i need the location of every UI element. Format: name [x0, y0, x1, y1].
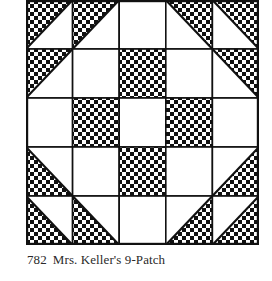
quilt-cell	[119, 147, 166, 196]
quilt-cell	[73, 49, 120, 98]
quilt-pattern-grid	[26, 0, 259, 245]
quilt-cell	[166, 196, 213, 245]
quilt-cell	[26, 147, 73, 196]
quilt-cell	[26, 0, 73, 49]
quilt-cell	[119, 0, 166, 49]
quilt-cell	[212, 98, 259, 147]
quilt-cell	[73, 0, 120, 49]
quilt-cell	[166, 49, 213, 98]
figure-caption: 782Mrs. Keller's 9-Patch	[27, 252, 165, 268]
quilt-cell	[26, 98, 73, 147]
quilt-cell	[73, 147, 120, 196]
quilt-cell	[166, 98, 213, 147]
quilt-cell	[166, 0, 213, 49]
quilt-cell	[212, 49, 259, 98]
figure-title: Mrs. Keller's 9-Patch	[53, 252, 165, 267]
quilt-cell	[26, 49, 73, 98]
quilt-cell	[119, 98, 166, 147]
quilt-cell	[73, 98, 120, 147]
quilt-block-diagram	[26, 0, 259, 245]
quilt-cell	[212, 196, 259, 245]
quilt-cell	[212, 147, 259, 196]
quilt-cell	[73, 196, 120, 245]
figure-number: 782	[27, 252, 47, 267]
quilt-cell	[166, 147, 213, 196]
quilt-cell	[119, 196, 166, 245]
quilt-cell	[212, 0, 259, 49]
quilt-cell	[119, 49, 166, 98]
quilt-cell	[26, 196, 73, 245]
